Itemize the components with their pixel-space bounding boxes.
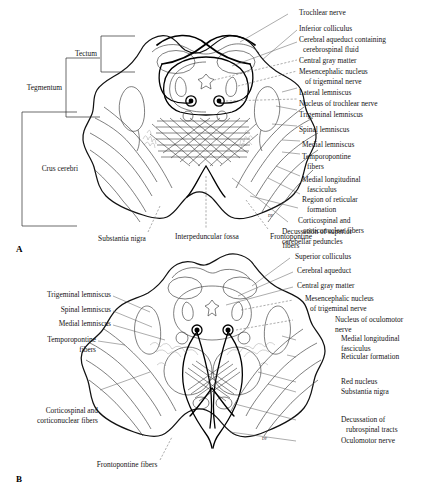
label-decussation-rubro-b-l2: rubrospinal tracts (346, 425, 398, 434)
label-decussation-rubro-b-l1: Decussation of (341, 415, 386, 424)
label-medial-lemniscus-b: Medial lemniscus (59, 319, 111, 328)
panel-marker-b: B (16, 474, 22, 484)
label-superior-colliculus-b: Superior colliculus (295, 252, 351, 261)
label-nucleus-oculomotor-b1: Nucleus of oculomotor (335, 315, 404, 324)
tectum-label: Tectum (75, 49, 97, 58)
midbrain-cross-sections-svg: DF Tectum Tegmentum Crus cerebri (0, 0, 444, 492)
inline-abbrev-a: DF (268, 213, 274, 218)
label-cerebral-aqueduct-a-line1: Cerebral aqueduct containing (299, 35, 386, 44)
label-central-gray-matter-b: Central gray matter (297, 281, 355, 290)
label-medial-lemniscus-a: Medial lemniscus (302, 140, 354, 149)
label-oculomotor-nerve-b: Oculomotor nerve (341, 436, 396, 445)
label-frontopontine-fibers-b: Frontopontine fibers (97, 460, 158, 469)
label-interpeduncular-fossa-a: Interpeduncular fossa (175, 232, 240, 241)
label-cerebral-aqueduct-a-line2: cerebrospinal fluid (303, 45, 359, 54)
label-central-gray-matter-a: Central gray matter (299, 56, 357, 65)
label-mesencephalic-nucleus-b1: Mesencephalic nucleus (305, 294, 374, 303)
label-mlf-a-l1: Medial longitudinal (302, 175, 361, 184)
label-cerebral-aqueduct-b: Cerebral aqueduct (297, 266, 352, 275)
anatomy-figure: DF Tectum Tegmentum Crus cerebri (0, 0, 444, 492)
crus-cerebri-label: Crus cerebri (42, 164, 78, 173)
label-temporopontine-fibers-a-l2: fibers (307, 162, 324, 171)
label-nucleus-oculomotor-b2: nerve (335, 325, 352, 334)
label-mlf-b-l1: Medial longitudinal (341, 334, 400, 343)
panel-marker-a: A (16, 244, 23, 254)
label-frontopontine-fibers-a-l2: fibers (283, 241, 300, 250)
label-reticular-formation-a-l1: Region of reticular (302, 195, 358, 204)
label-trochlear-nerve-a: Trochlear nerve (299, 8, 346, 17)
label-temporopontine-b-l2: fibers (79, 345, 96, 354)
label-mesencephalic-nucleus-b2: of trigeminal nerve (310, 304, 367, 313)
label-corticospinal-b-l2: corticonuclear fibers (37, 416, 98, 425)
label-temporopontine-fibers-a-l1: Temporopontine (302, 152, 351, 161)
label-substantia-nigra-b: Substantia nigra (341, 387, 390, 396)
label-frontopontine-fibers-a-l1: Frontopontine (270, 232, 313, 241)
label-corticospinal-b-l1: Corticospinal and (46, 406, 99, 415)
label-trigeminal-lemniscus-b: Trigeminal lemniscus (47, 290, 111, 299)
label-spinal-lemniscus-b: Spinal lemniscus (61, 305, 111, 314)
label-nucleus-trochlear-nerve-a: Nucleus of trochlear nerve (299, 99, 378, 108)
label-red-nucleus-b: Red nucleus (341, 377, 377, 386)
label-substantia-nigra-a: Substantia nigra (98, 234, 147, 243)
label-mesencephalic-nucleus-a-l1: Mesencephalic nucleus (299, 67, 368, 76)
label-corticospinal-a-l1: Corticospinal and (298, 216, 351, 225)
label-reticular-formation-b: Reticular formation (341, 352, 399, 361)
label-temporopontine-b-l1: Temporopontine (47, 335, 96, 344)
label-mesencephalic-nucleus-a-l2: of trigeminal nerve (305, 77, 362, 86)
label-spinal-lemniscus-a: Spinal lemniscus (299, 125, 349, 134)
label-lateral-lemniscus-a: Lateral lemniscus (299, 88, 351, 97)
label-inferior-colliculus-a: Inferior colliculus (299, 24, 352, 33)
label-trigeminal-lemniscus-a: Trigeminal lemniscus (299, 110, 363, 119)
tegmentum-label: Tegmentum (27, 83, 62, 92)
label-mlf-a-l2: fasciculus (307, 185, 337, 194)
label-reticular-formation-a-l2: formation (307, 205, 336, 214)
